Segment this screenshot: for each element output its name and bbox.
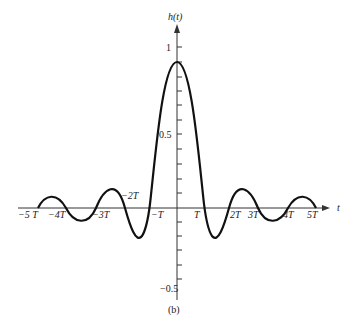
x-tick-label-neg-2T: −2T [121, 190, 140, 201]
x-tick-label-neg-4T: −4T [48, 209, 67, 220]
sinc-impulse-response-chart: h(t) 1 0.5 −0.5 t −5 T −4T −3T −2T −T T … [0, 0, 355, 321]
y-tick-label-1: 1 [166, 42, 171, 53]
y-axis-arrow-icon [174, 24, 180, 33]
x-tick-label-T: T [194, 209, 201, 220]
x-axis-arrow-icon [322, 205, 330, 211]
y-axis-label: h(t) [168, 11, 183, 23]
x-tick-label-4T: 4T [283, 209, 295, 220]
y-tick-label-0.5: 0.5 [159, 129, 172, 140]
y-tick-label-neg-0.5: −0.5 [160, 283, 178, 294]
x-tick-label-neg-T: −T [151, 209, 165, 220]
x-tick-label-neg-5T: −5 T [18, 209, 39, 220]
x-tick-label-2T: 2T [230, 209, 242, 220]
figure-caption: (b) [168, 304, 180, 316]
x-tick-label-neg-3T: −3T [92, 209, 111, 220]
x-axis-label: t [337, 202, 340, 213]
x-tick-label-5T: 5T [307, 209, 319, 220]
x-tick-label-3T: 3T [247, 209, 260, 220]
y-axis-ticks [177, 47, 182, 279]
